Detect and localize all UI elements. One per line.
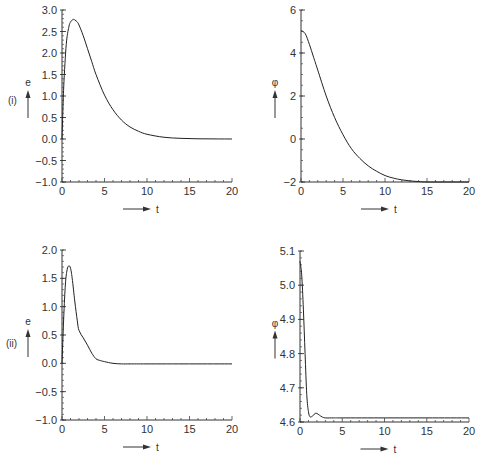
y-tick-label: 2.0: [42, 47, 57, 59]
arrowhead-up-icon: [26, 329, 31, 337]
y-tick-label: −2: [283, 176, 296, 188]
y-tick-label: 1.5: [42, 272, 57, 284]
x-axis-label: t: [394, 444, 397, 455]
figure: 05101520−1.0−0.50.00.51.01.52.02.53.0te(…: [0, 0, 479, 461]
y-tick-label: 4.9: [280, 313, 295, 325]
y-tick-label: 2: [290, 90, 296, 102]
x-tick-label: 20: [226, 423, 238, 435]
y-tick-label: 0.5: [42, 329, 57, 341]
y-tick-label: −1.0: [35, 176, 57, 188]
arrowhead-up-icon: [273, 90, 278, 98]
row-label: (ii): [6, 338, 17, 349]
y-tick-label: 5.1: [280, 245, 295, 257]
y-tick-label: 0.0: [42, 133, 57, 145]
y-tick-label: 6: [290, 4, 296, 16]
x-tick-label: 0: [297, 425, 303, 437]
y-tick-label: 5.0: [280, 279, 295, 291]
y-tick-label: −1.0: [35, 414, 57, 426]
chart-panel-ii-e: 05101520−1.0−0.50.00.51.01.52.0te(ii): [6, 244, 238, 453]
x-tick-label: 10: [379, 185, 391, 197]
y-axis-label: φ: [272, 77, 279, 88]
row-label: (i): [8, 95, 17, 106]
y-tick-label: 2.5: [42, 26, 57, 38]
chart-panel-i-phi: 05101520−20246tφ: [272, 4, 475, 215]
y-tick-label: 4.6: [280, 416, 295, 428]
x-tick-label: 0: [59, 185, 65, 197]
chart-panel-ii-phi: 051015204.64.74.84.95.05.1tφ: [272, 245, 475, 455]
y-axis-label: e: [25, 316, 31, 327]
x-tick-label: 20: [226, 185, 238, 197]
y-tick-label: 3.0: [42, 4, 57, 16]
x-tick-label: 20: [463, 425, 475, 437]
y-tick-label: 4: [290, 47, 296, 59]
y-tick-label: 1.5: [42, 69, 57, 81]
x-tick-label: 15: [183, 423, 195, 435]
y-tick-label: 0: [290, 133, 296, 145]
arrowhead-right-icon: [143, 207, 151, 212]
y-axis-label: φ: [272, 318, 279, 329]
x-axis-label: t: [156, 442, 159, 453]
data-line: [62, 266, 232, 364]
y-tick-label: 1.0: [42, 90, 57, 102]
data-line: [300, 261, 469, 418]
y-tick-label: 4.7: [280, 382, 295, 394]
x-tick-label: 5: [340, 185, 346, 197]
x-tick-label: 20: [463, 185, 475, 197]
arrowhead-right-icon: [381, 447, 389, 452]
y-tick-label: 0.0: [42, 357, 57, 369]
x-tick-label: 10: [141, 185, 153, 197]
x-tick-label: 15: [421, 425, 433, 437]
x-tick-label: 0: [59, 423, 65, 435]
x-tick-label: 5: [339, 425, 345, 437]
y-tick-label: 4.8: [280, 348, 295, 360]
y-tick-label: −0.5: [35, 386, 57, 398]
arrowhead-up-icon: [26, 90, 31, 98]
y-tick-label: 1.0: [42, 301, 57, 313]
x-tick-label: 15: [183, 185, 195, 197]
data-line: [301, 30, 469, 182]
data-line: [62, 19, 232, 139]
x-axis-label: t: [394, 204, 397, 215]
y-axis-label: e: [25, 77, 31, 88]
y-tick-label: 2.0: [42, 244, 57, 256]
x-tick-label: 10: [141, 423, 153, 435]
x-tick-label: 10: [378, 425, 390, 437]
x-tick-label: 5: [101, 185, 107, 197]
chart-panel-i-e: 05101520−1.0−0.50.00.51.01.52.02.53.0te(…: [8, 4, 238, 215]
x-axis-label: t: [156, 204, 159, 215]
arrowhead-right-icon: [381, 207, 389, 212]
arrowhead-up-icon: [273, 331, 278, 339]
y-tick-label: −0.5: [35, 155, 57, 167]
arrowhead-right-icon: [143, 445, 151, 450]
y-tick-label: 0.5: [42, 112, 57, 124]
x-tick-label: 15: [421, 185, 433, 197]
x-tick-label: 0: [298, 185, 304, 197]
x-tick-label: 5: [101, 423, 107, 435]
